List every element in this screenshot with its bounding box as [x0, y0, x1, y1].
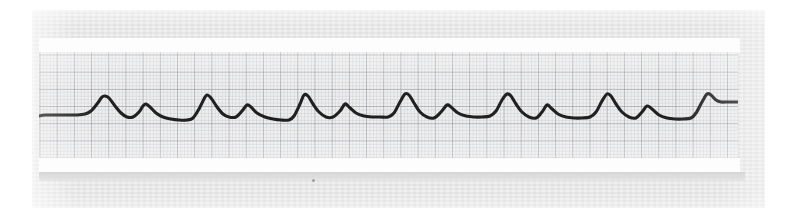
white-band-top — [39, 38, 740, 53]
ecg-trace-path — [39, 93, 738, 120]
ecg-scan-page: Alternating large and small complexes (p… — [0, 0, 798, 218]
scan-speck-artifact — [312, 179, 315, 182]
ecg-rhythm-strip — [39, 52, 738, 159]
ecg-trace — [39, 52, 738, 159]
strip-shadow-band — [39, 172, 745, 181]
white-band-bottom — [39, 158, 740, 172]
